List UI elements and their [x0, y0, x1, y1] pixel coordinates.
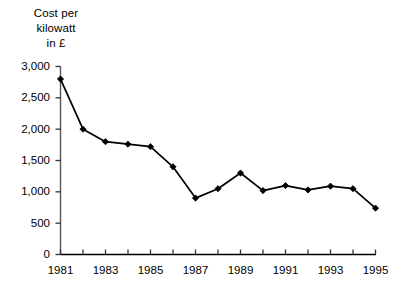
y-tick-label-6: 3,000 [2, 60, 50, 72]
x-tick-label-1989: 1989 [219, 264, 263, 276]
y-tick-label-1: 500 [2, 217, 50, 229]
line-chart: Cost per kilowatt in £ 05001,0001,5002,0… [0, 0, 406, 305]
x-tick-label-1993: 1993 [309, 264, 353, 276]
data-point-1984 [125, 141, 131, 147]
y-tick-label-3: 1,500 [2, 154, 50, 166]
data-point-1981 [57, 76, 63, 82]
x-tick-label-1985: 1985 [129, 264, 173, 276]
data-point-1991 [282, 182, 288, 188]
y-tick-label-4: 2,000 [2, 123, 50, 135]
x-tick-label-1981: 1981 [39, 264, 83, 276]
plot-area [0, 0, 406, 305]
x-tick-label-1983: 1983 [84, 264, 128, 276]
data-point-1992 [305, 187, 311, 193]
y-tick-label-5: 2,500 [2, 91, 50, 103]
data-point-1993 [327, 183, 333, 189]
x-tick-label-1995: 1995 [354, 264, 398, 276]
x-tick-label-1991: 1991 [264, 264, 308, 276]
y-tick-label-0: 0 [2, 248, 50, 260]
y-tick-label-2: 1,000 [2, 185, 50, 197]
figure-caption [30, 294, 330, 305]
x-tick-label-1987: 1987 [174, 264, 218, 276]
